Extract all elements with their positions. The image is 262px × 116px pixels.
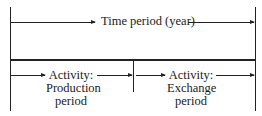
time-period-arrow-left	[11, 22, 95, 23]
exchange-period-label: Activity: Exchange period	[167, 69, 215, 108]
time-period-arrow-right	[188, 22, 254, 23]
production-arrow-left	[11, 75, 45, 76]
production-period-label: Activity: Production period	[46, 69, 96, 108]
exchange-arrow-right	[216, 75, 254, 76]
exchange-line3: period	[167, 95, 215, 108]
production-line3: period	[46, 95, 96, 108]
time-period-label: Time period (year)	[101, 15, 185, 28]
exchange-arrow-left	[136, 75, 165, 76]
middle-divider-line	[133, 59, 134, 92]
production-arrow-right	[97, 75, 132, 76]
